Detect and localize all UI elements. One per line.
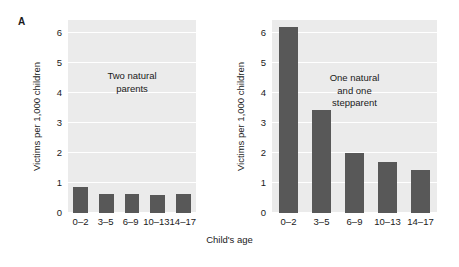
y-tick-label: 5 [57,58,62,68]
bar-slot [404,20,437,213]
y-tick-label: 3 [261,118,266,128]
y-tick-label: 2 [57,148,62,158]
y-tick-label: 1 [57,178,62,188]
bar[interactable] [312,110,331,213]
y-tick-label: 6 [57,28,62,38]
bar[interactable] [378,162,397,213]
panel-annotation: Two natural parents [68,70,196,95]
figure-panel-a: A Victims per 1,000 children 0 1 2 3 4 5… [0,0,459,267]
annotation-line: One natural [272,72,437,85]
bar[interactable] [176,194,191,213]
bar-slot [338,20,371,213]
y-tick-label: 2 [261,148,266,158]
x-tick-label: 3–5 [93,216,118,227]
bar[interactable] [99,194,114,213]
plot-area: One natural and one stepparent [272,20,437,213]
y-axis-title: Victims per 1,000 children [234,20,248,213]
bar[interactable] [73,187,88,213]
annotation-line: parents [68,83,196,96]
plot-area: Two natural parents [68,20,196,213]
panel-letter: A [18,16,25,27]
y-tick-label: 4 [261,88,266,98]
x-tick-label: 0–2 [68,216,93,227]
bar[interactable] [279,27,298,213]
x-axis-tick-labels: 0–2 3–5 6–9 10–13 14–17 [272,216,437,227]
y-tick-label: 0 [57,208,62,218]
y-tick-label: 0 [261,208,266,218]
annotation-line: and one [272,85,437,98]
y-tick-label: 6 [261,28,266,38]
x-tick-label: 0–2 [272,216,305,227]
bar-slot [305,20,338,213]
bar-group [272,20,437,213]
x-tick-label: 6–9 [338,216,371,227]
y-axis-tick-labels: 0 1 2 3 4 5 6 [46,20,62,213]
bar-group [68,20,196,213]
y-axis-title: Victims per 1,000 children [30,20,44,213]
x-tick-label: 10–13 [143,216,169,227]
x-axis-title: Child's age [0,234,459,245]
y-tick-label: 5 [261,58,266,68]
panel-annotation: One natural and one stepparent [272,72,437,110]
bar[interactable] [150,195,165,213]
bar[interactable] [411,170,430,213]
bar-slot [68,20,94,213]
bar-slot [145,20,171,213]
x-tick-label: 14–17 [170,216,196,227]
bar-slot [170,20,196,213]
y-tick-label: 3 [57,118,62,128]
y-tick-label: 1 [261,178,266,188]
x-tick-label: 6–9 [118,216,143,227]
x-tick-label: 10–13 [371,216,404,227]
y-axis-tick-labels: 0 1 2 3 4 5 6 [250,20,266,213]
bar-slot [94,20,120,213]
x-tick-label: 3–5 [305,216,338,227]
y-tick-label: 4 [57,88,62,98]
x-tick-label: 14–17 [404,216,437,227]
bar-slot [272,20,305,213]
x-axis-tick-labels: 0–2 3–5 6–9 10–13 14–17 [68,216,196,227]
bar-slot [371,20,404,213]
annotation-line: Two natural [68,70,196,83]
bar-slot [119,20,145,213]
bar[interactable] [345,153,364,213]
annotation-line: stepparent [272,97,437,110]
bar[interactable] [125,194,140,213]
